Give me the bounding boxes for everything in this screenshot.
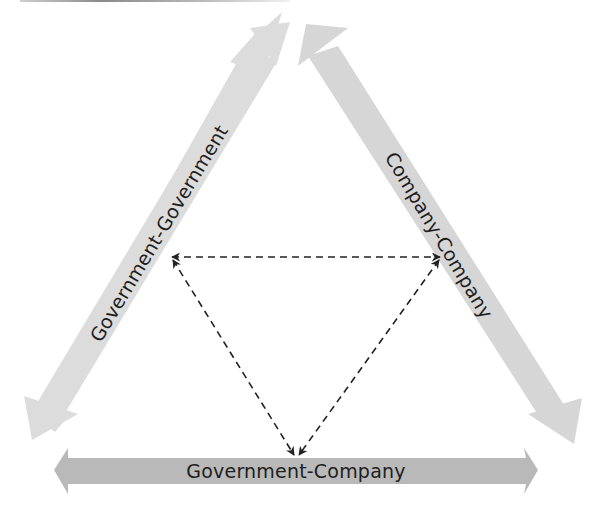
- company-company-label: Company-Company: [381, 148, 498, 322]
- dashed-link-right-bottom: [299, 260, 439, 455]
- dashed-link-left-bottom: [173, 260, 294, 455]
- dashed-links: [172, 257, 440, 455]
- government-company-band: Government-Company: [54, 448, 538, 494]
- relationship-triangle-diagram: Government-Government Company-Company Go…: [0, 0, 606, 513]
- government-government-band: Government-Government: [24, 12, 290, 440]
- government-government-label: Government-Government: [85, 121, 232, 346]
- government-company-label: Government-Company: [186, 460, 405, 482]
- company-company-band: Company-Company: [298, 24, 582, 444]
